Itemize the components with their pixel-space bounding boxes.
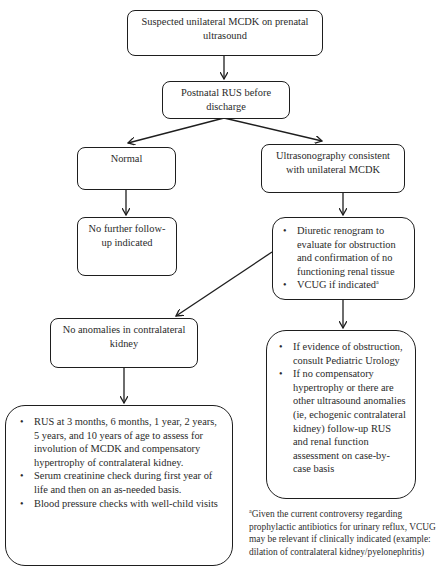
node-no-anomalies: No anomalies in contralateral kidney <box>50 318 198 368</box>
node-label: Postnatal RUS before discharge <box>181 87 271 112</box>
list-item: If evidence of obstruction, consult Pedi… <box>275 340 407 367</box>
list-item: RUS at 3 months, 6 months, 1 year, 2 yea… <box>16 415 222 469</box>
list-item: VCUG if indicateda <box>279 278 408 292</box>
footnote: aGiven the current controversy regarding… <box>249 508 444 558</box>
node-normal: Normal <box>77 147 176 190</box>
node-no-further-followup: No further follow-up indicated <box>77 217 177 276</box>
footnote-marker: a <box>376 279 379 285</box>
node-obstruction-followup: If evidence of obstruction, consult Pedi… <box>266 330 416 499</box>
list-item: If no compensatory hypertrophy or there … <box>275 367 407 476</box>
list-item: Blood pressure checks with well-child vi… <box>16 497 222 511</box>
footnote-text: Given the current controversy regarding … <box>249 509 436 557</box>
bullet-list: RUS at 3 months, 6 months, 1 year, 2 yea… <box>16 415 222 510</box>
node-label: No anomalies in contralateral kidney <box>63 324 186 349</box>
node-ultrasonography-consistent: Ultrasonography consistent with unilater… <box>261 144 405 193</box>
bullet-list: If evidence of obstruction, consult Pedi… <box>275 340 407 476</box>
list-item: Diuretic renogram to evaluate for obstru… <box>279 224 408 278</box>
node-label: Ultrasonography consistent with unilater… <box>276 150 390 175</box>
node-diuretic-renogram: Diuretic renogram to evaluate for obstru… <box>272 217 415 300</box>
node-postnatal-rus: Postnatal RUS before discharge <box>162 81 290 119</box>
node-monitoring-plan: RUS at 3 months, 6 months, 1 year, 2 yea… <box>5 405 233 566</box>
node-label: No further follow-up indicated <box>89 223 166 248</box>
node-suspected-mcdk: Suspected unilateral MCDK on prenatal ul… <box>127 10 323 56</box>
node-label: Suspected unilateral MCDK on prenatal ul… <box>142 16 309 41</box>
node-label: Normal <box>111 153 143 164</box>
bullet-list: Diuretic renogram to evaluate for obstru… <box>279 224 408 292</box>
list-item: Serum creatinine check during first year… <box>16 469 222 496</box>
